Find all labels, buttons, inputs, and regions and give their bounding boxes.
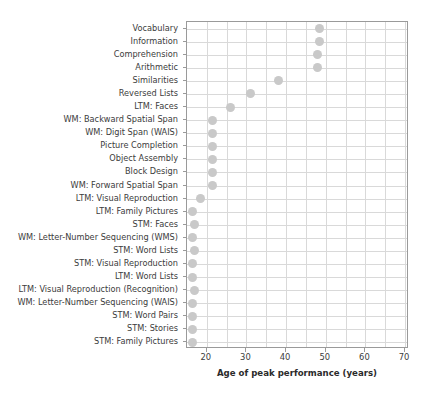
data-point bbox=[190, 220, 199, 229]
x-axis-tick-label: 60 bbox=[359, 353, 370, 361]
data-point bbox=[188, 273, 197, 282]
vertical-gridline bbox=[246, 22, 247, 347]
y-axis-tick-label: LTM: Visual Reproduction (Recognition) bbox=[19, 285, 178, 293]
data-point bbox=[188, 207, 197, 216]
vertical-gridline bbox=[365, 22, 366, 347]
vertical-gridline bbox=[326, 22, 327, 347]
y-axis-tick-label: WM: Forward Spatial Span bbox=[71, 180, 178, 188]
horizontal-gridline bbox=[187, 146, 407, 147]
horizontal-gridline bbox=[187, 81, 407, 82]
horizontal-gridline bbox=[187, 107, 407, 108]
vertical-gridline bbox=[266, 22, 267, 347]
horizontal-gridline bbox=[187, 55, 407, 56]
horizontal-gridline bbox=[187, 172, 407, 173]
horizontal-gridline bbox=[187, 290, 407, 291]
vertical-gridline bbox=[227, 22, 228, 347]
y-axis-tick-label: LTM: Word Lists bbox=[115, 272, 178, 280]
horizontal-gridline bbox=[187, 303, 407, 304]
y-axis-tick-label: Reversed Lists bbox=[119, 89, 178, 97]
y-axis-tick-label: Comprehension bbox=[114, 50, 178, 58]
data-point bbox=[190, 246, 199, 255]
data-point bbox=[188, 325, 197, 334]
horizontal-gridline bbox=[187, 120, 407, 121]
data-point bbox=[208, 181, 217, 190]
y-axis-tick-label: STM: Word Pairs bbox=[112, 311, 178, 319]
x-axis-tick-label: 70 bbox=[399, 353, 410, 361]
y-axis-tick-label: LTM: Faces bbox=[134, 102, 178, 110]
data-point bbox=[188, 259, 197, 268]
data-point bbox=[313, 63, 322, 72]
y-axis-tick-label: Arithmetic bbox=[135, 63, 178, 71]
data-point bbox=[188, 338, 197, 347]
horizontal-gridline bbox=[187, 94, 407, 95]
y-axis-tick-label: WM: Backward Spatial Span bbox=[63, 115, 178, 123]
y-axis-tick-label: LTM: Family Pictures bbox=[96, 207, 178, 215]
horizontal-gridline bbox=[187, 277, 407, 278]
x-axis-tick-label: 40 bbox=[280, 353, 291, 361]
plot-area bbox=[186, 21, 408, 348]
data-point bbox=[196, 194, 205, 203]
scatter-chart: VocabularyInformationComprehensionArithm… bbox=[0, 0, 427, 394]
horizontal-gridline bbox=[187, 42, 407, 43]
horizontal-gridline bbox=[187, 329, 407, 330]
horizontal-gridline bbox=[187, 199, 407, 200]
data-point bbox=[274, 76, 283, 85]
y-axis-tick-label: STM: Faces bbox=[133, 220, 178, 228]
y-axis-tick-label: Block Design bbox=[125, 167, 178, 175]
y-axis-tick-label: Picture Completion bbox=[100, 141, 178, 149]
x-axis-title: Age of peak performance (years) bbox=[186, 368, 408, 378]
data-point bbox=[188, 312, 197, 321]
x-axis-tick-label: 30 bbox=[240, 353, 251, 361]
y-axis-tick-label: Object Assembly bbox=[109, 154, 178, 162]
data-point bbox=[188, 233, 197, 242]
horizontal-gridline bbox=[187, 68, 407, 69]
y-axis-tick-label: WM: Letter-Number Sequencing (WMS) bbox=[18, 233, 178, 241]
x-axis-tick-label: 50 bbox=[319, 353, 330, 361]
x-axis-tick-labels: 203040506070 bbox=[186, 353, 408, 365]
x-axis-tick-label: 20 bbox=[200, 353, 211, 361]
y-axis-tick-label: WM: Letter-Number Sequencing (WAIS) bbox=[17, 298, 178, 306]
data-point bbox=[208, 168, 217, 177]
vertical-gridline bbox=[385, 22, 386, 347]
data-point bbox=[188, 299, 197, 308]
data-point bbox=[315, 37, 324, 46]
data-point bbox=[315, 24, 324, 33]
data-point bbox=[226, 103, 235, 112]
horizontal-gridline bbox=[187, 264, 407, 265]
y-axis-tick-label: Vocabulary bbox=[133, 23, 178, 31]
y-axis-tick-label: Information bbox=[131, 37, 178, 45]
horizontal-gridline bbox=[187, 159, 407, 160]
y-axis-tick-label: LTM: Visual Reproduction bbox=[76, 193, 178, 201]
horizontal-gridline bbox=[187, 225, 407, 226]
vertical-gridline bbox=[405, 22, 406, 347]
data-point bbox=[208, 142, 217, 151]
horizontal-gridline bbox=[187, 133, 407, 134]
y-axis-tick-label: STM: Stories bbox=[127, 324, 178, 332]
horizontal-gridline bbox=[187, 342, 407, 343]
y-axis-tick-label: Similarities bbox=[133, 76, 178, 84]
y-axis-tick-label: STM: Family Pictures bbox=[94, 337, 178, 345]
horizontal-gridline bbox=[187, 29, 407, 30]
data-point bbox=[246, 89, 255, 98]
horizontal-gridline bbox=[187, 316, 407, 317]
data-point bbox=[313, 50, 322, 59]
horizontal-gridline bbox=[187, 212, 407, 213]
y-axis-labels: VocabularyInformationComprehensionArithm… bbox=[0, 21, 183, 348]
vertical-gridline bbox=[346, 22, 347, 347]
data-point bbox=[208, 155, 217, 164]
y-axis-tick-label: WM: Digit Span (WAIS) bbox=[85, 128, 178, 136]
vertical-gridline bbox=[286, 22, 287, 347]
horizontal-gridline bbox=[187, 186, 407, 187]
data-point bbox=[190, 286, 199, 295]
y-axis-tick-label: STM: Word Lists bbox=[113, 246, 178, 254]
y-axis-tick-label: STM: Visual Reproduction bbox=[74, 259, 178, 267]
horizontal-gridline bbox=[187, 251, 407, 252]
data-point bbox=[208, 116, 217, 125]
data-point bbox=[208, 129, 217, 138]
horizontal-gridline bbox=[187, 238, 407, 239]
vertical-gridline bbox=[306, 22, 307, 347]
